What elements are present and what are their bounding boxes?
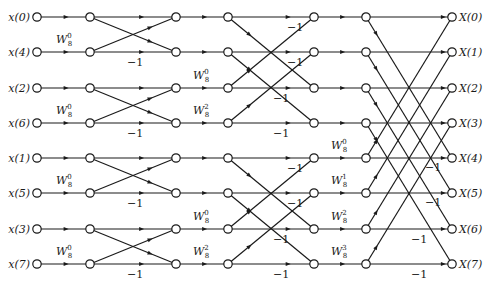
- arrowhead-icon: [441, 50, 446, 54]
- arrowhead-icon: [64, 227, 69, 231]
- junction-node: [362, 84, 370, 92]
- input-label: x(4): [8, 46, 30, 59]
- input-node: [33, 84, 41, 92]
- arrowhead-icon: [441, 156, 446, 160]
- twiddle-factor-label: W08: [56, 103, 72, 119]
- junction-node: [172, 84, 180, 92]
- arrowhead-icon: [64, 262, 69, 266]
- input-node: [33, 260, 41, 268]
- arrowhead-icon: [441, 15, 446, 19]
- negation-label: −1: [273, 233, 289, 246]
- output-node: [448, 84, 456, 92]
- arrowhead-icon: [202, 227, 207, 231]
- arrowhead-icon: [340, 156, 345, 160]
- output-label: X(0): [458, 11, 482, 24]
- junction-node: [362, 13, 370, 21]
- negation-label: −1: [127, 268, 143, 281]
- input-node: [33, 154, 41, 162]
- arrowhead-icon: [202, 121, 207, 125]
- negation-label: −1: [273, 92, 289, 105]
- arrowhead-icon: [139, 50, 144, 54]
- junction-node: [172, 119, 180, 127]
- arrowhead-icon: [441, 191, 446, 195]
- arrowhead-icon: [286, 262, 291, 266]
- twiddle-factor-label: W08: [56, 32, 72, 48]
- arrowhead-icon: [64, 15, 69, 19]
- arrowhead-icon: [147, 110, 152, 114]
- arrowhead-icon: [147, 251, 152, 255]
- junction-node: [224, 225, 232, 233]
- input-node: [33, 225, 41, 233]
- junction-node: [362, 260, 370, 268]
- output-node: [448, 154, 456, 162]
- output-label: X(3): [458, 117, 482, 130]
- arrowhead-icon: [64, 50, 69, 54]
- arrowhead-icon: [147, 168, 152, 172]
- arrowhead-icon: [202, 50, 207, 54]
- arrowhead-icon: [340, 262, 345, 266]
- junction-node: [362, 154, 370, 162]
- junction-node: [86, 260, 94, 268]
- arrowhead-icon: [147, 239, 152, 243]
- junction-node: [172, 189, 180, 197]
- input-node: [33, 119, 41, 127]
- arrowhead-icon: [64, 121, 69, 125]
- arrowhead-icon: [441, 121, 446, 125]
- junction-node: [86, 189, 94, 197]
- junction-node: [310, 119, 318, 127]
- arrowhead-icon: [202, 86, 207, 90]
- arrowhead-icon: [139, 191, 144, 195]
- junction-node: [310, 225, 318, 233]
- arrowhead-icon: [286, 86, 291, 90]
- junction-node: [310, 48, 318, 56]
- negation-label: −1: [287, 197, 303, 210]
- twiddle-factor-label: W08: [331, 138, 347, 154]
- arrowhead-icon: [286, 156, 291, 160]
- junction-node: [310, 154, 318, 162]
- output-node: [448, 225, 456, 233]
- output-label: X(5): [458, 187, 482, 200]
- negation-label: −1: [127, 197, 143, 210]
- negation-label: −1: [273, 268, 289, 281]
- arrowhead-icon: [373, 66, 377, 71]
- input-label: x(0): [8, 11, 30, 24]
- junction-node: [224, 13, 232, 21]
- input-label: x(5): [8, 187, 30, 200]
- arrowhead-icon: [139, 86, 144, 90]
- arrowhead-icon: [340, 50, 345, 54]
- junction-node: [86, 154, 94, 162]
- junction-node: [224, 260, 232, 268]
- arrowhead-icon: [147, 98, 152, 102]
- negation-label: −1: [425, 196, 441, 209]
- negation-label: −1: [411, 233, 427, 246]
- input-node: [33, 13, 41, 21]
- arrowhead-icon: [139, 121, 144, 125]
- input-label: x(7): [8, 258, 30, 271]
- junction-node: [310, 84, 318, 92]
- twiddle-factor-label: W28: [331, 209, 347, 225]
- junction-node: [224, 48, 232, 56]
- negation-label: −1: [287, 162, 303, 175]
- arrowhead-icon: [286, 191, 291, 195]
- input-node: [33, 189, 41, 197]
- arrowhead-icon: [202, 262, 207, 266]
- output-label: X(4): [458, 152, 482, 165]
- output-node: [448, 260, 456, 268]
- arrowhead-icon: [202, 191, 207, 195]
- arrowhead-icon: [373, 102, 377, 107]
- junction-node: [362, 189, 370, 197]
- junction-node: [224, 154, 232, 162]
- junction-node: [86, 225, 94, 233]
- arrowhead-icon: [286, 227, 291, 231]
- twiddle-factor-label: W08: [193, 209, 209, 225]
- output-label: X(7): [458, 258, 482, 271]
- junction-node: [172, 260, 180, 268]
- arrowhead-icon: [340, 227, 345, 231]
- output-node: [448, 13, 456, 21]
- negation-label: −1: [127, 127, 143, 140]
- output-node: [448, 48, 456, 56]
- input-label: x(1): [8, 152, 30, 165]
- negation-label: −1: [287, 21, 303, 34]
- fft-butterfly-diagram: x(0)x(4)x(2)x(6)x(1)x(5)x(3)x(7)X(0)X(1)…: [0, 0, 493, 286]
- output-node: [448, 119, 456, 127]
